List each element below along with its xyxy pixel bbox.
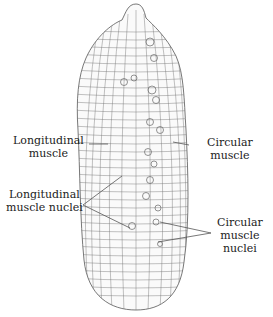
label-line: muscle	[207, 149, 253, 162]
label-circular-muscle: Circular muscle	[207, 136, 253, 162]
label-line: muscle	[217, 229, 263, 242]
label-line: Longitudinal	[13, 134, 84, 147]
label-longitudinal-muscle: Longitudinal muscle	[13, 134, 84, 160]
label-line: muscle	[13, 147, 84, 160]
diagram-canvas: Longitudinal muscle Circular muscle Long…	[0, 0, 273, 317]
label-longitudinal-muscle-nuclei: Longitudinal muscle nuclei	[6, 188, 83, 214]
label-line: Circular	[207, 136, 253, 149]
label-line: muscle nuclei	[6, 201, 83, 214]
label-line: Circular	[217, 216, 263, 229]
label-circular-muscle-nuclei: Circular muscle nuclei	[217, 216, 263, 255]
label-line: nuclei	[217, 242, 263, 255]
label-line: Longitudinal	[6, 188, 83, 201]
